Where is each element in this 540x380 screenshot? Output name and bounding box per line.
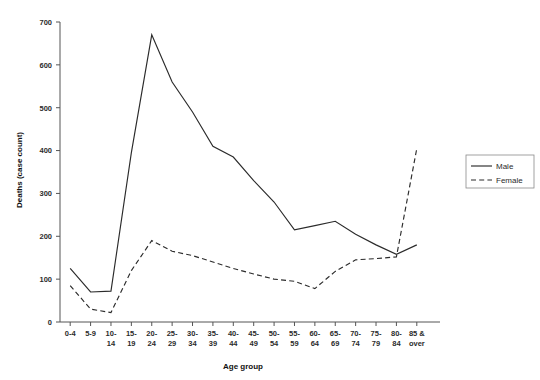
line-chart: 0100200300400500600700 0-45-910-1415-192… bbox=[0, 0, 540, 380]
x-axis-tick-label: 85 & bbox=[409, 329, 425, 338]
data-series-group bbox=[70, 35, 417, 313]
x-axis-title: Age group bbox=[223, 362, 263, 371]
x-axis-tick-label-line2: 59 bbox=[290, 339, 298, 348]
x-axis-tick-label-line2: 69 bbox=[331, 339, 339, 348]
chart-legend: MaleFemale bbox=[466, 155, 534, 188]
x-axis-tick-label: 35- bbox=[207, 329, 218, 338]
x-axis-tick-label-line2: 14 bbox=[107, 339, 116, 348]
x-axis-tick-label: 30- bbox=[187, 329, 198, 338]
x-axis-tick-label: 45- bbox=[248, 329, 259, 338]
x-axis-tick-label-line2: 24 bbox=[148, 339, 157, 348]
chart-container: 0100200300400500600700 0-45-910-1415-192… bbox=[0, 0, 540, 380]
x-axis-tick-label: 25- bbox=[167, 329, 178, 338]
x-axis-tick-label: 5-9 bbox=[85, 329, 96, 338]
series-line-female bbox=[70, 148, 417, 312]
y-axis-tick-label: 200 bbox=[39, 232, 52, 241]
x-axis-tick-label: 50- bbox=[269, 329, 280, 338]
x-axis-tick-label: 60- bbox=[309, 329, 320, 338]
x-axis-tick-label-line2: 29 bbox=[168, 339, 176, 348]
x-axis-tick-label: 15- bbox=[126, 329, 137, 338]
x-axis-tick-label: 80- bbox=[391, 329, 402, 338]
x-axis-tick-label-line2: 84 bbox=[392, 339, 401, 348]
x-axis-tick-label-line2: 34 bbox=[188, 339, 197, 348]
y-axis-tick-label: 300 bbox=[39, 189, 52, 198]
x-axis-tick-label-line2: 54 bbox=[270, 339, 279, 348]
x-axis-tick-label-line2: 64 bbox=[311, 339, 320, 348]
x-axis-tick-label: 0-4 bbox=[65, 329, 77, 338]
x-axis-tick-label-line2: 44 bbox=[229, 339, 238, 348]
x-axis: 0-45-910-1415-1920-2425-2930-3435-3940-4… bbox=[60, 322, 440, 348]
x-axis-tick-label-line2: over bbox=[409, 339, 425, 348]
y-axis-tick-label: 100 bbox=[39, 275, 52, 284]
x-axis-tick-label-line2: 19 bbox=[127, 339, 135, 348]
y-axis-tick-label: 400 bbox=[39, 146, 52, 155]
y-axis-tick-label: 600 bbox=[39, 61, 52, 70]
series-line-male bbox=[70, 35, 417, 292]
x-axis-tick-label: 65- bbox=[330, 329, 341, 338]
y-axis-tick-label: 700 bbox=[39, 18, 52, 27]
x-axis-tick-label-line2: 74 bbox=[351, 339, 360, 348]
y-axis-tick-label: 500 bbox=[39, 104, 52, 113]
y-axis-title: Deaths (case count) bbox=[15, 132, 24, 208]
x-axis-tick-label-line2: 79 bbox=[372, 339, 380, 348]
x-axis-tick-label-line2: 49 bbox=[250, 339, 258, 348]
x-axis-tick-label: 70- bbox=[350, 329, 361, 338]
y-axis-tick-label: 0 bbox=[48, 318, 52, 327]
y-axis: 0100200300400500600700 bbox=[39, 18, 60, 327]
x-axis-tick-label: 20- bbox=[146, 329, 157, 338]
x-axis-tick-label-line2: 39 bbox=[209, 339, 217, 348]
x-axis-tick-label: 40- bbox=[228, 329, 239, 338]
x-axis-tick-label: 10- bbox=[106, 329, 117, 338]
legend-label-female: Female bbox=[496, 176, 523, 185]
x-axis-tick-label: 75- bbox=[371, 329, 382, 338]
x-axis-tick-label: 55- bbox=[289, 329, 300, 338]
legend-label-male: Male bbox=[496, 162, 514, 171]
